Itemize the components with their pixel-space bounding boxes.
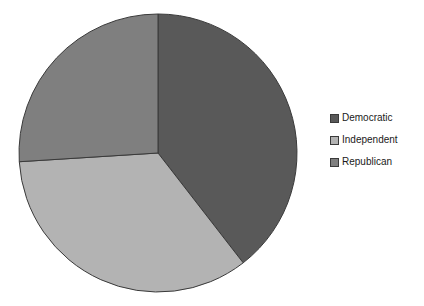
legend-item-democratic: Democratic <box>330 111 398 125</box>
legend-swatch-independent-icon <box>330 136 339 145</box>
legend-item-republican: Republican <box>330 155 398 169</box>
legend-label-democratic: Democratic <box>342 111 393 125</box>
legend-swatch-democratic-icon <box>330 114 339 123</box>
pie-chart-figure: Democratic Independent Republican <box>0 0 424 306</box>
legend-swatch-republican-icon <box>330 158 339 167</box>
legend-item-independent: Independent <box>330 133 398 147</box>
pie-slice-republican <box>19 14 158 162</box>
legend: Democratic Independent Republican <box>330 111 398 177</box>
legend-label-republican: Republican <box>342 155 392 169</box>
legend-label-independent: Independent <box>342 133 398 147</box>
